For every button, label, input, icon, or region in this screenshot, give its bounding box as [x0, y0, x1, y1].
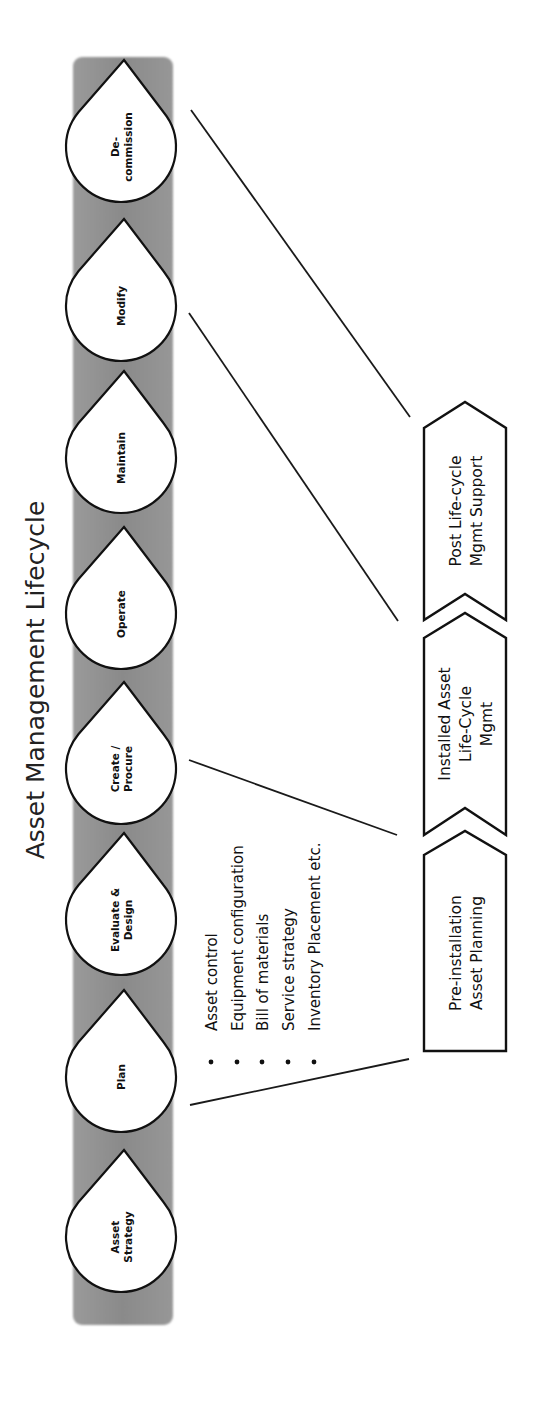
- bullet-item: Bill of materials: [254, 914, 272, 1031]
- stage-label: De-: [109, 137, 121, 157]
- stage-label: Procure: [122, 746, 134, 792]
- phase-post-lifecycle: [424, 402, 506, 620]
- connector-create-to-installed: [189, 760, 397, 835]
- connector-lines: [189, 110, 410, 1105]
- phase-chevrons: Post Life-cycleMgmt SupportInstalled Ass…: [424, 402, 506, 1051]
- phase-label: Asset Planning: [468, 896, 486, 1010]
- stage-label: Plan: [115, 1064, 127, 1090]
- stage-label: Modify: [115, 286, 127, 326]
- connector-plan-to-pre: [190, 1059, 409, 1105]
- bullet-dot-icon: [286, 1060, 291, 1065]
- phase-label: Mgmt Support: [468, 456, 486, 567]
- stage-label: Design: [122, 900, 134, 941]
- stage-label: Evaluate &: [109, 888, 121, 952]
- bullet-dot-icon: [235, 1060, 240, 1065]
- bullet-item: Service strategy: [280, 908, 298, 1031]
- stage-label: Create /: [109, 745, 121, 792]
- connector-decommission-to-post: [191, 110, 410, 417]
- asset-lifecycle-diagram: Asset Management Lifecycle De-commission…: [0, 0, 538, 1410]
- bullet-item: Equipment configuration: [229, 845, 247, 1031]
- bullet-dot-icon: [209, 1060, 214, 1065]
- phase-label: Installed Asset: [436, 667, 454, 780]
- diagram-title: Asset Management Lifecycle: [21, 501, 50, 860]
- bullet-dot-icon: [260, 1060, 265, 1065]
- bullet-list: Asset controlEquipment configurationBill…: [203, 843, 324, 1065]
- stage-label: Operate: [115, 590, 127, 638]
- phase-label: Post Life-cycle: [447, 456, 465, 567]
- bullet-item: Inventory Placement etc.: [306, 843, 324, 1031]
- bullet-dot-icon: [312, 1060, 317, 1065]
- phase-label: Life-Cycle: [457, 686, 475, 762]
- stage-label: commission: [122, 112, 134, 182]
- stage-label: Maintain: [115, 432, 127, 484]
- phase-label: Mgmt: [478, 702, 496, 746]
- phase-label: Pre-installation: [447, 895, 465, 1011]
- stage-label: Asset: [109, 1221, 121, 1254]
- title-text: Asset Management Lifecycle: [21, 501, 50, 860]
- stage-label: Strategy: [122, 1211, 134, 1263]
- phase-pre-installation: [424, 831, 506, 1051]
- connector-modify-to-installed: [189, 313, 398, 621]
- bullet-item: Asset control: [203, 933, 221, 1031]
